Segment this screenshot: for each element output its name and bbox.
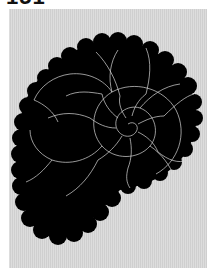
ammonite-shell-icon [9, 9, 207, 268]
shell-silhouette [11, 32, 203, 245]
figure-panel [9, 9, 207, 268]
page-number: 151 [6, 0, 46, 8]
